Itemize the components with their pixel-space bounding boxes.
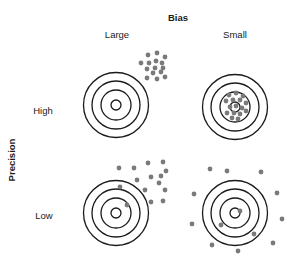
- shot-dot: [271, 241, 276, 246]
- shot-dot: [149, 175, 154, 180]
- shot-dot: [230, 116, 235, 121]
- shot-dot: [163, 55, 168, 60]
- target-ring-1: [84, 181, 149, 246]
- target-ring-2: [92, 81, 140, 129]
- bias-precision-diagram: [0, 0, 300, 266]
- shot-dot: [159, 70, 164, 75]
- shot-dot: [143, 188, 148, 193]
- shot-dot: [190, 222, 195, 227]
- precision-title: Precision: [6, 139, 17, 182]
- shot-dot: [149, 200, 154, 205]
- shot-dot: [244, 109, 249, 114]
- target-ring-3: [101, 90, 131, 120]
- shot-dot: [164, 169, 169, 174]
- shot-dot: [275, 191, 280, 196]
- target-ring-2: [92, 189, 140, 237]
- shot-dot: [232, 111, 237, 116]
- shot-dot: [192, 192, 197, 197]
- target-ring-4: [111, 100, 121, 110]
- shot-dot: [241, 94, 246, 99]
- bias-large-label: Large: [105, 29, 129, 40]
- shot-dot: [157, 181, 162, 186]
- target-ring-3: [220, 198, 250, 228]
- target-ring-1: [84, 73, 149, 138]
- shot-dot: [163, 75, 168, 80]
- shot-dot: [125, 203, 130, 208]
- shot-dot: [238, 209, 243, 214]
- shot-dot: [155, 77, 160, 82]
- shot-dot: [224, 99, 229, 104]
- shot-dot: [154, 59, 159, 64]
- shot-dot: [236, 117, 241, 122]
- shot-dot: [159, 174, 164, 179]
- shot-dot: [139, 61, 144, 66]
- target-ring-1: [203, 181, 268, 246]
- shot-dot: [234, 91, 239, 96]
- shot-dot: [135, 178, 140, 183]
- shot-dot: [146, 53, 151, 58]
- shot-dot: [151, 71, 156, 76]
- shot-dot: [117, 166, 122, 171]
- bias-title: Bias: [168, 12, 188, 23]
- target-ring-4: [111, 208, 121, 218]
- shot-dot: [118, 185, 123, 190]
- shot-dot: [228, 105, 233, 110]
- target-ring-3: [101, 198, 131, 228]
- shot-dot: [219, 223, 224, 228]
- shot-dot: [231, 98, 236, 103]
- shot-dot: [236, 249, 241, 254]
- shot-dot: [225, 169, 230, 174]
- shot-dot: [225, 111, 230, 116]
- shot-dot: [147, 61, 152, 66]
- shot-dot: [161, 160, 166, 165]
- target-high-precision-large-bias: [84, 51, 168, 138]
- shot-dot: [155, 51, 160, 56]
- target-high-precision-small-bias: [203, 75, 268, 140]
- precision-low-label: Low: [35, 210, 52, 221]
- target-low-precision-small-bias: [190, 167, 285, 254]
- shot-dot: [153, 66, 158, 71]
- target-low-precision-large-bias: [84, 160, 169, 246]
- shot-dot: [146, 161, 151, 166]
- shot-dot: [160, 61, 165, 66]
- shot-dot: [145, 76, 150, 81]
- shot-dot: [132, 166, 137, 171]
- shot-dot: [208, 167, 213, 172]
- shot-dot: [238, 98, 243, 103]
- shot-dot: [227, 93, 232, 98]
- shot-dot: [234, 104, 239, 109]
- precision-high-label: High: [33, 105, 53, 116]
- shot-dot: [145, 67, 150, 72]
- shot-dot: [240, 106, 245, 111]
- shot-dot: [244, 101, 249, 106]
- shot-dot: [252, 232, 257, 237]
- shot-dot: [163, 188, 168, 193]
- shot-dot: [259, 170, 264, 175]
- target-ring-2: [211, 189, 259, 237]
- shot-dot: [161, 199, 166, 204]
- shot-dot: [238, 112, 243, 117]
- bias-small-label: Small: [223, 29, 247, 40]
- shot-dot: [210, 243, 215, 248]
- shot-dot: [280, 217, 285, 222]
